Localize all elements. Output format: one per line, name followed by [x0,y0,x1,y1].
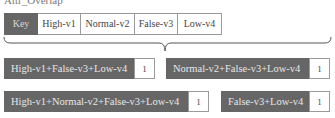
curly-brace-icon [3,36,333,56]
combination-label: High-v1+Normal-v2+False-v3+Low-v4 [4,91,188,112]
key-header: Key [4,13,38,35]
diagram-title: Attr_Overlap [4,0,63,6]
key-item-high: High-v1 [38,13,81,35]
combination-count: 1 [309,91,330,112]
combination-label: High-v1+False-v3+Low-v4 [4,58,134,79]
key-item-normal: Normal-v2 [81,13,135,35]
key-item-low: Low-v4 [178,13,222,35]
combination-3: High-v1+Normal-v2+False-v3+Low-v4 1 [4,91,209,112]
combination-label: False-v3+Low-v4 [221,91,309,112]
combination-count: 1 [134,58,155,79]
key-item-false: False-v3 [135,13,178,35]
combination-label: Normal-v2+False-v3+Low-v4 [166,58,309,79]
key-row: Key High-v1 Normal-v2 False-v3 Low-v4 [4,13,222,35]
combination-count: 1 [188,91,209,112]
combination-4: False-v3+Low-v4 1 [221,91,330,112]
combination-1: High-v1+False-v3+Low-v4 1 [4,58,155,79]
combination-2: Normal-v2+False-v3+Low-v4 1 [166,58,330,79]
combination-count: 1 [309,58,330,79]
